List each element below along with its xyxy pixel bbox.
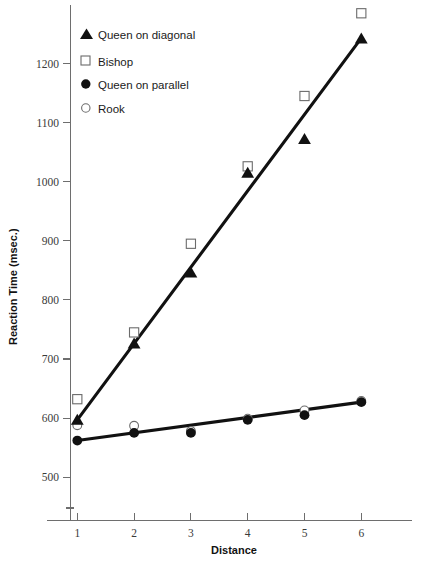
chart-canvas: 1200 1100 1000 900 800 700 600 500 React…	[0, 0, 423, 567]
x-axis-title: Distance	[211, 544, 257, 556]
y-tick-label-600: 600	[42, 412, 60, 424]
legend-label-queen-on-parallel: Queen on parallel	[98, 79, 189, 91]
filled-triangle-icon	[80, 29, 93, 40]
data-point-bishop	[186, 239, 195, 248]
data-point-queen-on-diagonal	[355, 32, 368, 43]
fit-lines	[77, 38, 361, 440]
legend-item-queen-on-diagonal: Queen on diagonal	[80, 29, 195, 42]
y-tick-label-1200: 1200	[36, 58, 59, 70]
data-point-queen-on-parallel	[243, 415, 253, 425]
data-point-queen-on-parallel	[356, 397, 366, 407]
series-markers-rook	[73, 397, 366, 436]
x-tick-label-5: 5	[302, 527, 308, 539]
legend-label-rook: Rook	[98, 103, 125, 115]
legend-item-rook: Rook	[82, 103, 125, 115]
x-axis: 1 2 3 4 5 6 Distance	[47, 513, 412, 556]
y-tick-label-700: 700	[42, 353, 60, 365]
legend-label-bishop: Bishop	[98, 56, 133, 68]
open-circle-icon	[82, 104, 90, 112]
data-point-queen-on-diagonal	[298, 133, 311, 144]
data-point-bishop	[300, 91, 309, 100]
legend-item-queen-on-parallel: Queen on parallel	[81, 79, 189, 91]
y-tick-label-1100: 1100	[36, 117, 59, 129]
open-square-icon	[81, 56, 90, 65]
y-tick-label-900: 900	[42, 235, 60, 247]
data-point-bishop	[357, 9, 366, 18]
y-axis: 1200 1100 1000 900 800 700 600 500 React…	[7, 5, 74, 520]
x-tick-label-6: 6	[358, 527, 364, 539]
chart-figure: 1200 1100 1000 900 800 700 600 500 React…	[0, 0, 423, 567]
series-markers-bishop	[73, 9, 366, 404]
data-point-queen-on-parallel	[129, 428, 139, 438]
data-point-queen-on-parallel	[186, 428, 196, 438]
x-tick-label-2: 2	[131, 527, 137, 539]
filled-circle-icon	[81, 79, 90, 88]
y-tick-group: 1200 1100 1000 900 800 700 600 500	[36, 58, 74, 509]
y-tick-label-500: 500	[42, 471, 60, 483]
x-tick-label-1: 1	[74, 527, 80, 539]
legend-item-bishop: Bishop	[81, 56, 133, 68]
x-tick-label-3: 3	[188, 527, 194, 539]
cropped-title-sliver	[120, 0, 410, 2]
y-tick-label-1000: 1000	[36, 176, 59, 188]
y-axis-title: Reaction Time (msec.)	[7, 228, 19, 345]
data-point-bishop	[130, 328, 139, 337]
legend-label-queen-on-diagonal: Queen on diagonal	[98, 29, 195, 41]
data-point-queen-on-parallel	[72, 436, 82, 446]
chart-legend: Queen on diagonal Bishop Queen on parall…	[80, 29, 195, 115]
data-point-bishop	[73, 395, 82, 404]
fit-line-queen-on-diagonal	[77, 38, 361, 420]
fit-line-queen-on-parallel	[77, 402, 361, 440]
y-tick-label-800: 800	[42, 294, 60, 306]
x-tick-group: 1 2 3 4 5 6	[74, 513, 364, 539]
x-tick-label-4: 4	[245, 527, 251, 539]
data-point-queen-on-parallel	[300, 410, 310, 420]
